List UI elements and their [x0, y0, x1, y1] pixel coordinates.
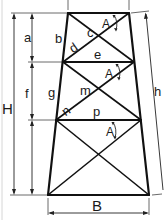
label-angle-3: A [106, 125, 114, 139]
label-c: c [87, 25, 94, 40]
label-e: e [94, 47, 101, 62]
label-angle-2: A [105, 67, 113, 81]
label-h: h [154, 84, 161, 99]
label-m: m [80, 83, 91, 98]
diagonal-3b [48, 120, 141, 195]
dimension-f [30, 62, 34, 120]
label-p: p [93, 104, 100, 119]
diagonal-3a [56, 120, 149, 195]
label-H: H [2, 100, 13, 117]
dimension-bottom-panel [30, 120, 34, 195]
tower-diagram: H a f b c d e g m n p h B A A A [0, 0, 164, 220]
label-B: B [92, 197, 102, 214]
diagonal-2a [63, 62, 141, 120]
label-b: b [55, 31, 62, 46]
label-g: g [48, 85, 55, 100]
label-angle-1: A [102, 17, 110, 31]
dimension-h [144, 13, 163, 191]
right-leg [129, 13, 149, 195]
label-d: d [66, 40, 81, 56]
label-f: f [25, 86, 29, 101]
label-a: a [24, 30, 32, 45]
